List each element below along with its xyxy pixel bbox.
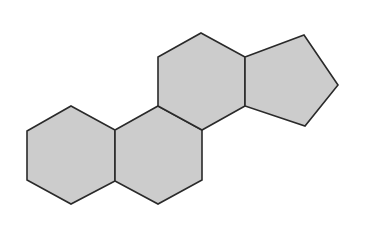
- hexagon-ring-a: [27, 106, 115, 204]
- fused-ring-diagram: [0, 0, 365, 225]
- pentagon-ring-d: [245, 35, 338, 126]
